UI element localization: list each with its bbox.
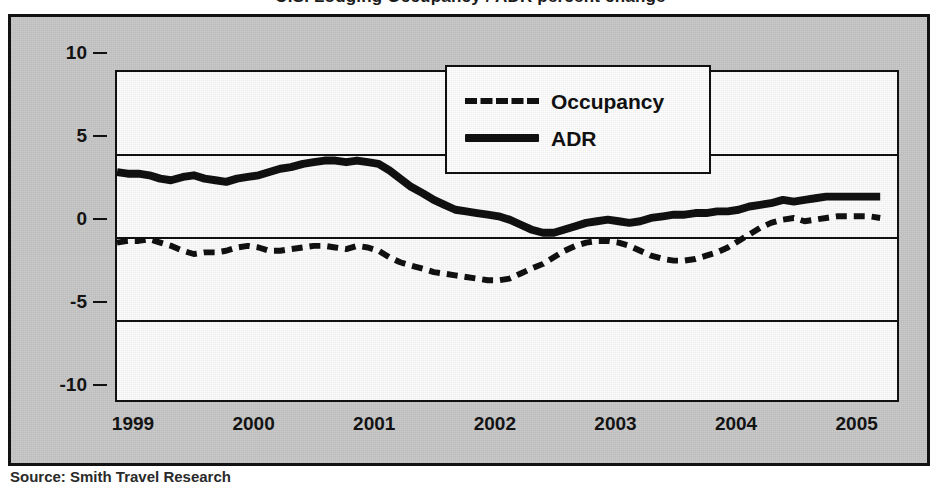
y-axis-label--10: -10 [11, 374, 87, 396]
figure-plate: 1050-5-10 1999200020012002200320042005 O… [8, 14, 930, 466]
x-axis-label-2000: 2000 [232, 413, 274, 435]
y-tick--5 [93, 301, 107, 303]
dashed-line-swatch-icon [465, 98, 539, 104]
x-axis-label-2002: 2002 [474, 413, 516, 435]
x-axis-label-2004: 2004 [715, 413, 757, 435]
y-tick-0 [93, 218, 107, 220]
legend-item-occupancy[interactable]: Occupancy [465, 91, 709, 112]
x-axis-label-2001: 2001 [353, 413, 395, 435]
legend-item-adr[interactable]: ADR [465, 128, 709, 149]
y-tick--10 [93, 384, 107, 386]
x-axis-label-2005: 2005 [836, 413, 878, 435]
chart-title: U.S. Lodging Occupancy / ADR percent cha… [0, 0, 941, 7]
y-tick-10 [93, 52, 107, 54]
y-axis-label-10: 10 [11, 42, 87, 64]
x-axis-label-2003: 2003 [594, 413, 636, 435]
series-line-occupancy [117, 216, 880, 280]
y-axis-label--5: -5 [11, 291, 87, 313]
y-axis-label-5: 5 [11, 125, 87, 147]
legend: Occupancy ADR [445, 65, 711, 174]
y-tick-5 [93, 135, 107, 137]
y-axis-label-0: 0 [11, 208, 87, 230]
source-caption: Source: Smith Travel Research [10, 468, 231, 485]
legend-label-adr: ADR [551, 128, 597, 149]
legend-label-occupancy: Occupancy [551, 91, 664, 112]
solid-line-swatch-icon [465, 134, 539, 142]
x-axis-label-1999: 1999 [112, 413, 154, 435]
